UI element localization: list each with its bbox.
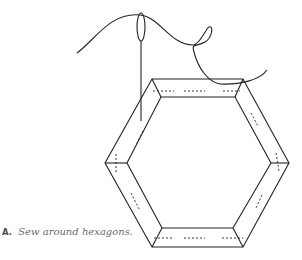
inner-hexagon (127, 97, 271, 228)
figure-caption: A. Sew around hexagons. (2, 226, 133, 237)
caption-text: Sew around hexagons. (18, 226, 133, 237)
corner-folds (105, 79, 289, 247)
hexagon-sewing-illustration (0, 0, 302, 260)
needle-icon (137, 13, 145, 121)
outer-hexagon (105, 79, 289, 247)
thread (77, 15, 267, 84)
figure-label: A. (2, 227, 12, 237)
